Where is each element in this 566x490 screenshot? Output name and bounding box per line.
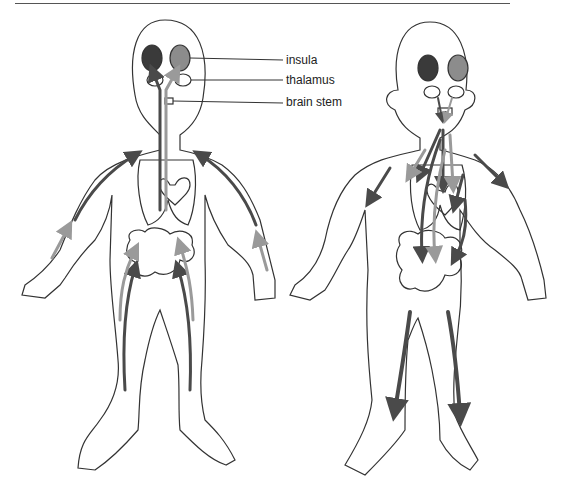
left-thalamus-right [175,74,191,86]
thalamus-label: thalamus [286,73,335,87]
brain-stem-label: brain stem [286,95,342,109]
label-lines [173,58,283,103]
left-arrow-leg-left-dark [124,268,135,390]
left-insula-light [170,45,190,71]
left-insula-dark [142,45,162,71]
right-arrows [370,98,503,415]
body-diagram [0,0,566,490]
left-heart [160,178,190,205]
right-arrow-heart-light [450,135,453,185]
left-arrow-arm-left-dark [75,155,135,220]
left-arrow-arm-left-light [52,228,68,258]
right-arrow-arm-left [370,168,390,200]
left-arrow-spine-light [166,72,176,210]
right-intestines [396,231,461,292]
left-arrows [52,72,267,390]
left-intestines [127,228,194,276]
right-figure [290,22,546,475]
right-insula-dark [418,55,438,81]
left-arrow-spine-dark [153,72,160,210]
right-insula-light [448,55,468,81]
left-arrow-arm-right-dark [200,155,256,225]
right-arrow-leg-left [395,312,410,410]
right-arrow-liver-dark [455,175,463,205]
right-body-outline [290,22,546,475]
right-heart [427,184,458,215]
insula-label: insula [286,53,317,67]
right-arrow-arm-right [475,155,503,183]
right-thalamus-right [448,86,464,98]
brain-stem-leader [173,101,283,103]
right-thalamus-left [424,86,440,98]
